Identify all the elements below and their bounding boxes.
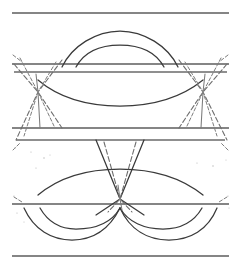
scan-speck (35, 167, 36, 168)
scan-speck (30, 151, 31, 152)
right-crossing-marker (202, 91, 204, 93)
scan-speck (226, 160, 227, 161)
scan-speck (14, 147, 15, 148)
scan-speck (43, 157, 44, 158)
canvas-background (0, 0, 241, 271)
scan-speck (24, 222, 25, 223)
scan-speck (229, 208, 230, 209)
scan-speck (196, 162, 197, 163)
center-crossing-marker (119, 198, 121, 200)
scan-speck (13, 195, 14, 196)
scan-speck (227, 195, 228, 196)
eye-diagram-figure (0, 0, 241, 271)
scan-speck (16, 212, 17, 213)
left-crossing-marker (37, 91, 39, 93)
scan-speck (50, 155, 51, 156)
eye-diagram-canvas (0, 0, 241, 271)
scan-speck (212, 165, 213, 166)
